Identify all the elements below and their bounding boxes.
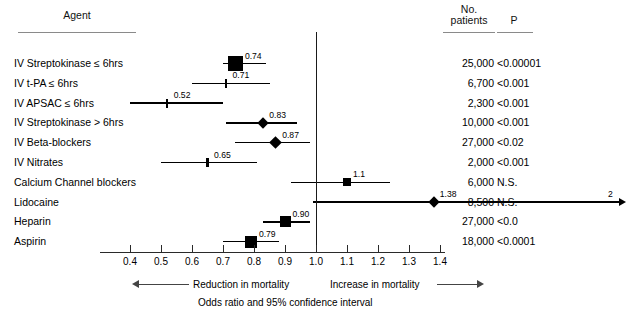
- odds-ratio-label: 0.52: [174, 90, 191, 100]
- odds-ratio-label: 0.71: [233, 70, 250, 80]
- point-estimate-tick: [225, 79, 227, 88]
- ci-right-arrow-icon: [619, 198, 626, 206]
- odds-ratio-label: 1.38: [440, 189, 457, 199]
- increase-in-mortality-label: Increase in mortality: [330, 279, 419, 290]
- x-axis-tick-label: 0.7: [208, 256, 238, 267]
- x-axis-tick: [130, 245, 131, 253]
- reduction-arrow-icon: [132, 280, 139, 288]
- confidence-interval-line: [161, 162, 257, 163]
- increase-arrow-icon: [477, 280, 484, 288]
- point-estimate-square: [228, 56, 243, 71]
- x-axis-tick-label: 0.5: [146, 256, 176, 267]
- reduction-rule: [139, 284, 189, 285]
- x-axis-tick: [161, 245, 162, 253]
- point-estimate-square: [343, 178, 351, 186]
- confidence-interval-line: [313, 201, 619, 202]
- odds-ratio-label: 0.79: [259, 229, 276, 239]
- confidence-interval-line: [192, 83, 270, 84]
- x-axis-tick-label: 0.9: [270, 256, 300, 267]
- point-estimate-tick: [166, 99, 168, 108]
- odds-ratio-label: 0.90: [293, 209, 310, 219]
- x-axis-tick: [409, 245, 410, 253]
- x-axis-tick: [192, 245, 193, 253]
- x-axis-tick-label: 0.6: [177, 256, 207, 267]
- confidence-interval-line: [130, 102, 223, 103]
- point-estimate-diamond: [258, 117, 269, 128]
- x-axis-tick-label: 1.2: [363, 256, 393, 267]
- x-axis-line: [100, 252, 445, 253]
- x-axis-tick: [316, 245, 317, 253]
- odds-ratio-label: 1.1: [353, 169, 365, 179]
- confidence-interval-line: [291, 182, 390, 183]
- odds-ratio-label: 0.65: [214, 150, 231, 160]
- point-estimate-square: [280, 216, 291, 227]
- x-axis-tick: [378, 245, 379, 253]
- odds-ratio-label: 0.83: [269, 110, 286, 120]
- point-estimate-tick: [206, 158, 208, 167]
- reference-line-1.0: [316, 32, 317, 253]
- x-axis-tick-label: 1.0: [301, 256, 331, 267]
- x-axis-tick-label: 1.1: [332, 256, 362, 267]
- x-axis-tick: [254, 245, 255, 253]
- odds-ratio-label: 0.87: [282, 130, 299, 140]
- figure-caption: Odds ratio and 95% confidence interval: [198, 297, 373, 308]
- x-axis-tick: [347, 245, 348, 253]
- x-axis-tick-label: 0.4: [115, 256, 145, 267]
- x-axis-tick-label: 1.4: [425, 256, 455, 267]
- ci-upper-label: 2: [608, 189, 613, 199]
- reduction-in-mortality-label: Reduction in mortality: [193, 279, 289, 290]
- x-axis-tick-label: 1.3: [394, 256, 424, 267]
- odds-ratio-label: 0.74: [245, 51, 262, 61]
- x-axis-tick: [223, 245, 224, 253]
- x-axis-tick-label: 0.8: [239, 256, 269, 267]
- point-estimate-diamond: [269, 136, 282, 149]
- x-axis-tick: [440, 245, 441, 253]
- point-estimate-diamond: [428, 196, 439, 207]
- x-axis-tick: [285, 245, 286, 253]
- increase-rule: [437, 284, 477, 285]
